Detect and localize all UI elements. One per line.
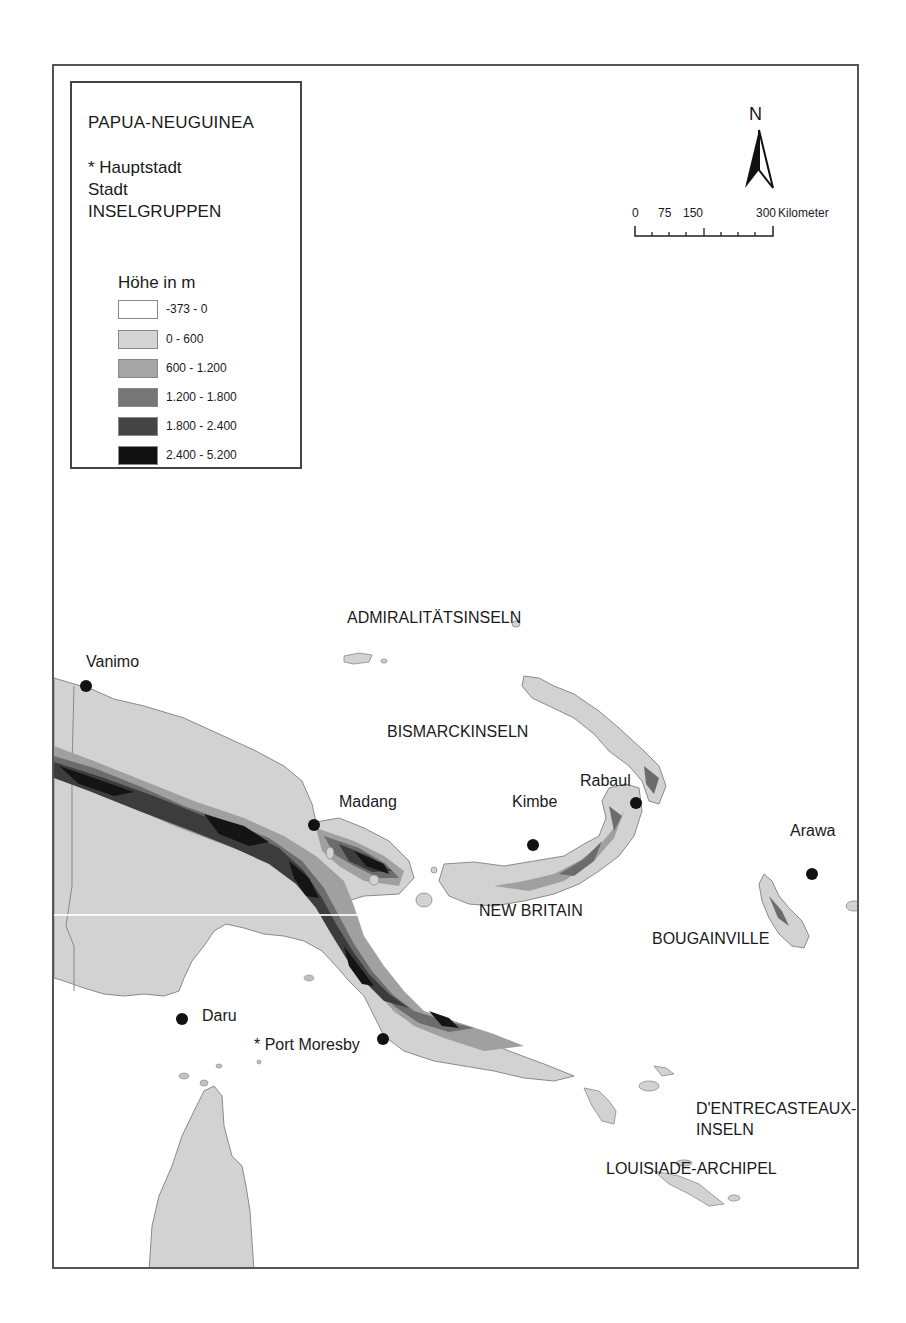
city-label-rabaul: Rabaul	[580, 772, 631, 790]
city-label-kimbe: Kimbe	[512, 793, 557, 811]
city-label-madang: Madang	[339, 793, 397, 811]
legend-class-label: 1.200 - 1.800	[166, 390, 237, 404]
legend-swatch	[118, 417, 158, 436]
scale-tick-label: 0	[632, 206, 639, 220]
scale-bar-graphic	[634, 224, 776, 238]
city-marker-vanimo[interactable]	[80, 680, 92, 692]
solomon-island-edge	[846, 901, 859, 911]
legend-class-row: -373 - 0	[118, 299, 207, 319]
scale-unit: Kilometer	[778, 206, 829, 220]
city-label-daru: Daru	[202, 1007, 237, 1025]
city-label-vanimo: Vanimo	[86, 653, 139, 671]
island-group-label-dentrecasteaux: D'ENTRECASTEAUX-	[696, 1100, 856, 1118]
city-label-port-moresby: * Port Moresby	[254, 1036, 360, 1054]
legend-class-label: 600 - 1.200	[166, 361, 227, 375]
north-arrow-icon	[741, 128, 777, 190]
island-group-label-dentrecasteaux-2: INSELN	[696, 1121, 754, 1139]
admiralty-islands	[344, 621, 520, 664]
city-marker-port-moresby[interactable]	[377, 1033, 389, 1045]
city-marker-daru[interactable]	[176, 1013, 188, 1025]
island-group-label-bismarck: BISMARCKINSELN	[387, 723, 528, 741]
dentrecasteaux-islands	[584, 1066, 674, 1124]
legend-class-label: 2.400 - 5.200	[166, 448, 237, 462]
legend-class-row: 600 - 1.200	[118, 358, 227, 378]
legend-swatch	[118, 446, 158, 465]
legend: PAPUA-NEUGUINEA * Hauptstadt Stadt INSEL…	[70, 81, 302, 469]
map-frame: PAPUA-NEUGUINEA * Hauptstadt Stadt INSEL…	[52, 64, 859, 1269]
island-group-label-bougainville: BOUGAINVILLE	[652, 930, 769, 948]
city-marker-madang[interactable]	[308, 819, 320, 831]
cape-york	[149, 1086, 254, 1269]
legend-swatch	[118, 300, 158, 319]
torres-strait-islands	[179, 975, 314, 1086]
city-marker-rabaul[interactable]	[630, 797, 642, 809]
legend-title: PAPUA-NEUGUINEA	[88, 113, 254, 133]
scale-tick-label: 150	[683, 206, 703, 220]
north-arrow: N	[739, 104, 779, 204]
island-group-label-louisiade: LOUISIADE-ARCHIPEL	[606, 1160, 777, 1178]
legend-swatch	[118, 330, 158, 349]
legend-class-label: 0 - 600	[166, 332, 203, 346]
legend-city: Stadt	[88, 180, 128, 200]
legend-capital: * Hauptstadt	[88, 158, 182, 178]
city-marker-arawa[interactable]	[806, 868, 818, 880]
legend-class-label: 1.800 - 2.400	[166, 419, 237, 433]
scale-tick-label: 300	[756, 206, 776, 220]
scale-tick-label: 75	[658, 206, 671, 220]
legend-island-groups: INSELGRUPPEN	[88, 202, 221, 222]
island-group-label-admiralty: ADMIRALITÄTSINSELN	[347, 609, 521, 627]
city-label-arawa: Arawa	[790, 822, 835, 840]
legend-class-row: 1.200 - 1.800	[118, 387, 237, 407]
legend-class-label: -373 - 0	[166, 302, 207, 316]
legend-swatch	[118, 388, 158, 407]
island-group-label-new-britain: NEW BRITAIN	[479, 902, 583, 920]
city-marker-kimbe[interactable]	[527, 839, 539, 851]
legend-swatch	[118, 359, 158, 378]
legend-class-row: 1.800 - 2.400	[118, 416, 237, 436]
north-label: N	[749, 104, 762, 125]
legend-elevation-title: Höhe in m	[118, 273, 195, 293]
legend-class-row: 2.400 - 5.200	[118, 445, 237, 465]
legend-class-row: 0 - 600	[118, 329, 203, 349]
scale-bar: 0 75 150 300 Kilometer	[632, 206, 859, 246]
